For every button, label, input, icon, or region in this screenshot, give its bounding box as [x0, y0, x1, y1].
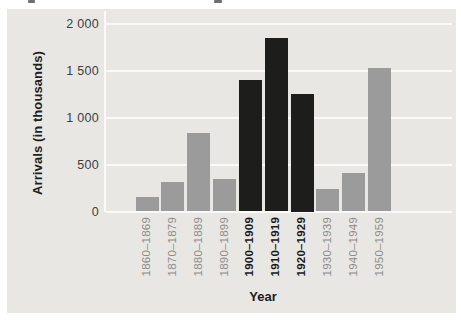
x-category-label: 1880–1889	[192, 217, 204, 276]
bar	[316, 189, 339, 212]
x-category-label: 1860–1869	[140, 217, 152, 276]
bar	[213, 179, 236, 212]
x-category-label: 1900–1909	[243, 217, 255, 276]
cropped-caption-artifact	[28, 0, 35, 3]
bar	[342, 173, 365, 212]
bar	[136, 197, 159, 211]
y-tick-label: 500	[35, 157, 99, 173]
y-tick-label: 1 000	[35, 110, 99, 126]
x-category-label: 1910–1919	[269, 217, 281, 276]
bar	[187, 133, 210, 212]
x-category-label: 1930–1939	[321, 217, 333, 276]
gridline	[106, 23, 452, 25]
x-category-label: 1870–1879	[166, 217, 178, 276]
figure-bar-chart: 05001 0001 5002 000 1860–18691870–187918…	[0, 0, 461, 323]
bar	[161, 182, 184, 211]
cropped-caption-artifact	[214, 0, 222, 3]
y-tick-label: 0	[35, 204, 99, 220]
x-category-label: 1940–1949	[347, 217, 359, 276]
bar	[239, 80, 262, 212]
y-axis-line	[104, 11, 106, 212]
x-category-label: 1950–1959	[373, 217, 385, 276]
y-tick-label: 1 500	[35, 63, 99, 79]
x-axis-title: Year	[163, 289, 363, 304]
x-category-label: 1890–1899	[218, 217, 230, 276]
bar	[291, 94, 314, 212]
x-category-label: 1920–1929	[295, 217, 307, 276]
y-tick-label: 2 000	[35, 16, 99, 32]
bar	[368, 68, 391, 212]
y-axis-title: Arrivals (in thousands)	[30, 51, 45, 195]
bar	[265, 38, 288, 212]
